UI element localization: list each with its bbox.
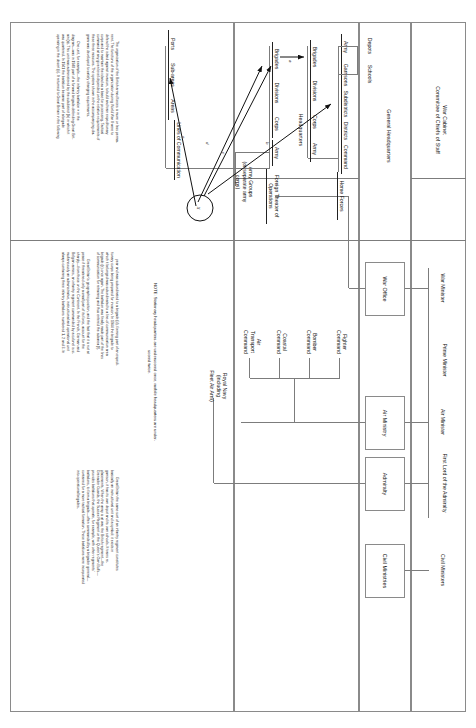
text-column-3: Great Britain the same sort of an infant… — [70, 470, 124, 702]
rotated-page-wrapper: War Cabinet Committee of Chiefs of Staff… — [0, 0, 476, 728]
text-col1-para2: One unit, for example—the infantry batta… — [56, 34, 80, 240]
org-chart-canvas: War Cabinet Committee of Chiefs of Staff… — [0, 0, 476, 728]
arrow-mark-e: e — [181, 136, 186, 138]
text-column-2: year and was subordinated to a brigade (… — [56, 252, 124, 458]
text-col3-para1: Great Britain the same sort of an infant… — [75, 470, 119, 702]
arrow-mark-d: d — [205, 142, 210, 144]
arrow-mark-c: c — [221, 152, 226, 154]
arrow-mark-a: a — [288, 60, 293, 62]
text-col2-para1: year and was subordinated to a brigade (… — [95, 252, 119, 458]
arrow-mark-b: b — [265, 142, 270, 144]
text-column-1: The organization of the British armed fo… — [51, 34, 124, 240]
text-col2-para2: Great Britain's geographic position, and… — [60, 252, 89, 458]
diagram-note: NOTE: Stationary headquarters are unders… — [146, 246, 158, 478]
svg-text:x: x — [196, 206, 202, 210]
text-col1-para1: The organization of the British armed fo… — [85, 34, 119, 240]
